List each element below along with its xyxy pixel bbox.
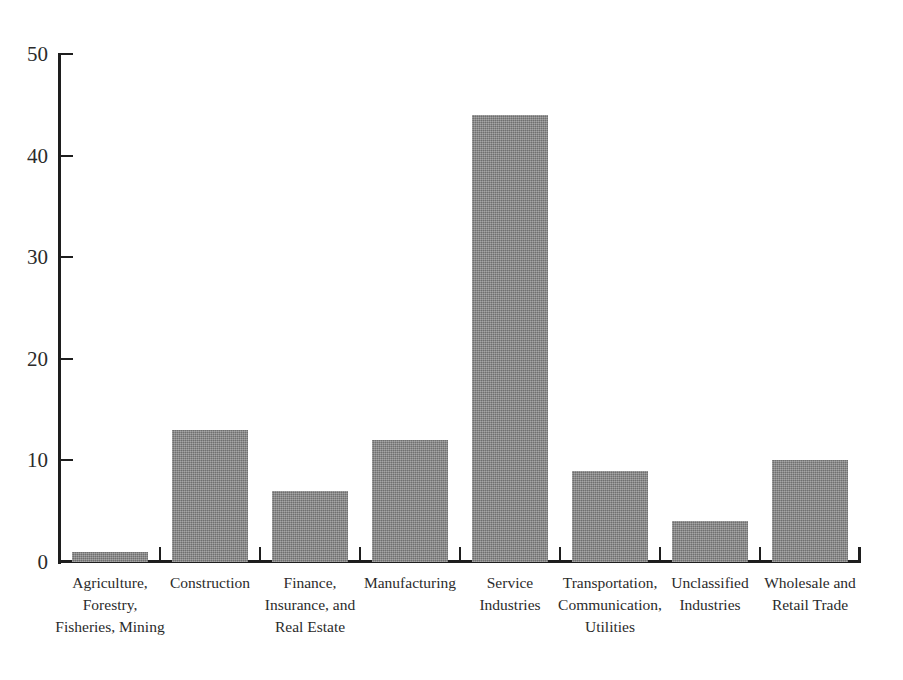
bar (472, 115, 548, 562)
y-tick-label: 10 (27, 450, 48, 471)
bar (672, 521, 748, 562)
bar (72, 552, 148, 562)
y-tick-label: 30 (27, 247, 48, 268)
plot-area (60, 54, 860, 562)
bar (272, 491, 348, 562)
bar-chart: 01020304050 Agriculture, Forestry, Fishe… (0, 0, 903, 680)
bar (172, 430, 248, 562)
y-tick-label: 50 (27, 43, 48, 64)
bar (372, 440, 448, 562)
bar (572, 471, 648, 562)
y-tick-label: 0 (38, 551, 49, 572)
bar (772, 460, 848, 562)
category-label: Wholesale and Retail Trade (748, 572, 872, 616)
y-tick-label: 20 (27, 348, 48, 369)
y-tick-label: 40 (27, 145, 48, 166)
